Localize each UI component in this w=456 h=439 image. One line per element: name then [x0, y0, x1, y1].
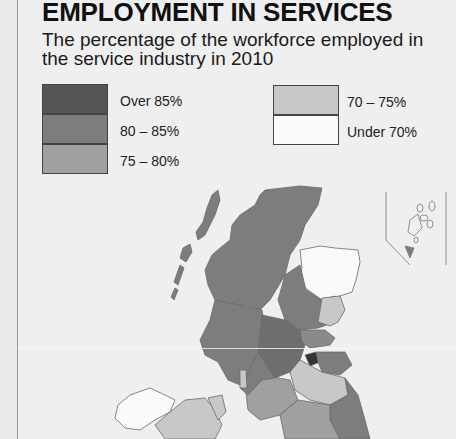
choropleth-map: [0, 0, 456, 439]
region-arran: [240, 370, 247, 388]
region-outer-hebrides: [196, 190, 220, 240]
page-fold-line: [18, 348, 456, 349]
shetland-inset: [386, 192, 446, 265]
region-angus: [318, 296, 345, 326]
